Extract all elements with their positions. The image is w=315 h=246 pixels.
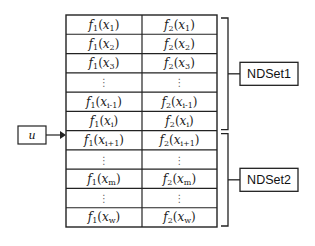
close-paren: ) bbox=[190, 18, 195, 32]
ellipsis-f1: ⋮ bbox=[99, 77, 109, 88]
ellipsis-f1: ⋮ bbox=[99, 193, 109, 204]
close-paren: ) bbox=[117, 95, 122, 109]
close-paren: ) bbox=[190, 56, 195, 70]
cell-value: f2(x2) bbox=[163, 37, 195, 52]
variable-subscript: i+1 bbox=[105, 139, 119, 148]
close-paren: ) bbox=[193, 95, 198, 109]
variable-subscript: i+1 bbox=[180, 139, 194, 148]
close-paren: ) bbox=[190, 37, 195, 51]
cell-value: f2(x3) bbox=[163, 56, 195, 71]
close-paren: ) bbox=[189, 114, 194, 128]
bracket-ndset1 bbox=[221, 18, 228, 130]
ellipsis-f2: ⋮ bbox=[175, 77, 185, 88]
variable-subscript: i-1 bbox=[182, 101, 192, 110]
cell-value: f2(xw) bbox=[162, 210, 196, 225]
close-paren: ) bbox=[119, 133, 124, 147]
cell-value: f1(x1) bbox=[88, 18, 120, 33]
ndset-diagram: f1(x1)f2(x1)f1(x2)f2(x2)f1(x3)f2(x3)⋮⋮f1… bbox=[0, 0, 315, 246]
close-paren: ) bbox=[115, 56, 120, 70]
set-brackets: NDSet1NDSet2 bbox=[221, 18, 298, 226]
cell-value: f2(xi) bbox=[164, 114, 193, 129]
close-paren: ) bbox=[195, 133, 200, 147]
set-label-ndset1: NDSet1 bbox=[247, 67, 291, 81]
u-label: u bbox=[28, 129, 35, 142]
bracket-ndset2 bbox=[221, 134, 228, 226]
cell-value: f2(x1) bbox=[163, 18, 195, 33]
cell-value: f1(xi) bbox=[89, 114, 118, 129]
ellipsis-f1: ⋮ bbox=[99, 155, 109, 166]
ellipsis-f2: ⋮ bbox=[175, 193, 185, 204]
cell-value: f1(xw) bbox=[87, 210, 121, 225]
set-label-ndset2: NDSet2 bbox=[247, 173, 291, 187]
input-u: u bbox=[18, 126, 66, 144]
close-paren: ) bbox=[116, 172, 121, 186]
arrow-head-icon bbox=[60, 131, 66, 139]
close-paren: ) bbox=[113, 114, 118, 128]
cell-value: f1(xm) bbox=[86, 172, 120, 187]
close-paren: ) bbox=[191, 172, 196, 186]
ellipsis-f2: ⋮ bbox=[175, 155, 185, 166]
close-paren: ) bbox=[115, 18, 120, 32]
close-paren: ) bbox=[115, 37, 120, 51]
close-paren: ) bbox=[116, 210, 121, 224]
variable-subscript: i-1 bbox=[107, 101, 117, 110]
close-paren: ) bbox=[191, 210, 196, 224]
cell-value: f1(x3) bbox=[88, 56, 120, 71]
cell-value: f2(xm) bbox=[162, 172, 196, 187]
objective-table: f1(x1)f2(x1)f1(x2)f2(x2)f1(x3)f2(x3)⋮⋮f1… bbox=[66, 15, 217, 227]
cell-value: f1(x2) bbox=[88, 37, 120, 52]
